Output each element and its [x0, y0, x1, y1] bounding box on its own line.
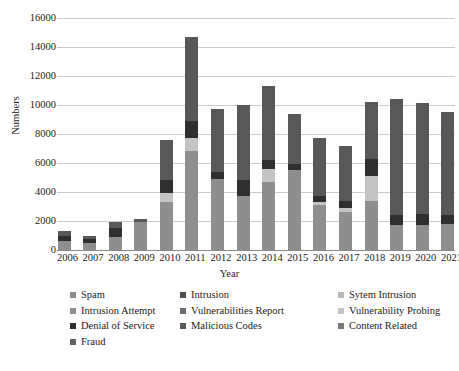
- x-tick-label: 2019: [390, 252, 404, 263]
- bar-segment: [416, 214, 429, 224]
- bar-column[interactable]: [236, 18, 250, 250]
- bar-column[interactable]: [441, 18, 455, 250]
- y-tick-label: 14000: [16, 42, 56, 52]
- x-axis-line: [57, 250, 455, 251]
- bar-segment: [416, 225, 429, 250]
- stacked-bar[interactable]: [365, 102, 378, 250]
- bar-segment: [185, 37, 198, 121]
- y-tick-label: 12000: [16, 71, 56, 81]
- bar-segment: [262, 182, 275, 250]
- legend-row: Denial of ServiceMalicious CodesContent …: [70, 320, 450, 332]
- stacked-bar[interactable]: [160, 140, 173, 250]
- bar-column[interactable]: [364, 18, 378, 250]
- bar-segment: [237, 105, 250, 180]
- stacked-bar[interactable]: [416, 103, 429, 250]
- stacked-bar[interactable]: [185, 37, 198, 250]
- bar-column[interactable]: [339, 18, 353, 250]
- stacked-bar[interactable]: [134, 219, 147, 250]
- bar-column[interactable]: [415, 18, 429, 250]
- bar-segment: [390, 99, 403, 215]
- bar-segment: [160, 193, 173, 202]
- legend-swatch-icon: [338, 292, 344, 298]
- bar-segment: [390, 225, 403, 250]
- bar-segment: [160, 140, 173, 181]
- stacked-bar[interactable]: [339, 146, 352, 250]
- x-tick-label: 2011: [185, 252, 199, 263]
- y-tick-label: 16000: [16, 13, 56, 23]
- legend-label: Intrusion: [191, 289, 229, 301]
- legend-item[interactable]: Fraud: [70, 336, 180, 348]
- legend-item[interactable]: Denial of Service: [70, 320, 180, 332]
- bar-segment: [262, 86, 275, 160]
- chart-legend: SpamIntrusionSytem IntrusionIntrusion At…: [70, 289, 450, 351]
- bar-column[interactable]: [83, 18, 97, 250]
- legend-label: Vulnerabilities Report: [191, 305, 284, 317]
- bar-segment: [390, 215, 403, 225]
- bar-segment: [339, 146, 352, 201]
- x-tick-label: 2009: [134, 252, 148, 263]
- bar-segment: [160, 202, 173, 250]
- bar-segment: [365, 201, 378, 250]
- bar-segment: [441, 224, 454, 250]
- stacked-bar[interactable]: [109, 222, 122, 250]
- stacked-bar[interactable]: [237, 105, 250, 250]
- legend-swatch-icon: [180, 323, 186, 329]
- x-axis-title: Year: [0, 268, 459, 279]
- legend-item[interactable]: Spam: [70, 289, 180, 301]
- legend-item[interactable]: Intrusion: [180, 289, 338, 301]
- bar-column[interactable]: [262, 18, 276, 250]
- bar-segment: [109, 228, 122, 237]
- bar-segment: [313, 138, 326, 196]
- legend-row: Intrusion AttemptVulnerabilities ReportV…: [70, 305, 450, 317]
- legend-swatch-icon: [70, 308, 76, 314]
- legend-label: Content Related: [349, 320, 417, 332]
- bar-column[interactable]: [211, 18, 225, 250]
- legend-swatch-icon: [180, 292, 186, 298]
- bar-column[interactable]: [134, 18, 148, 250]
- stacked-bar[interactable]: [390, 99, 403, 250]
- legend-label: Fraud: [81, 336, 106, 348]
- stacked-bar[interactable]: [288, 114, 301, 250]
- bar-segment: [109, 237, 122, 250]
- x-tick-label: 2014: [262, 252, 276, 263]
- bar-segment: [441, 215, 454, 224]
- plot-area: [57, 18, 455, 250]
- bar-segment: [160, 180, 173, 193]
- bar-segment: [262, 160, 275, 169]
- stacked-bar[interactable]: [58, 231, 71, 250]
- bar-column[interactable]: [390, 18, 404, 250]
- x-tick-label: 2016: [313, 252, 327, 263]
- stacked-bar[interactable]: [262, 86, 275, 250]
- bar-column[interactable]: [57, 18, 71, 250]
- legend-item[interactable]: Vulnerability Probing: [338, 305, 440, 317]
- bar-segment: [58, 241, 71, 250]
- bar-column[interactable]: [287, 18, 301, 250]
- bar-column[interactable]: [313, 18, 327, 250]
- bar-segment: [185, 138, 198, 151]
- x-tick-label: 2018: [364, 252, 378, 263]
- bar-series-container: [57, 18, 455, 250]
- stacked-bar[interactable]: [441, 112, 454, 250]
- bar-segment: [339, 212, 352, 250]
- plot-region: Numbers 16000140001200010000800060004000…: [0, 0, 459, 286]
- stacked-bar-chart: Numbers 16000140001200010000800060004000…: [0, 0, 459, 371]
- bar-segment: [185, 151, 198, 250]
- legend-item[interactable]: Intrusion Attempt: [70, 305, 180, 317]
- bar-segment: [288, 114, 301, 165]
- legend-swatch-icon: [338, 323, 344, 329]
- bar-segment: [365, 159, 378, 176]
- bar-segment: [441, 112, 454, 215]
- stacked-bar[interactable]: [313, 138, 326, 250]
- legend-item[interactable]: Vulnerabilities Report: [180, 305, 338, 317]
- stacked-bar[interactable]: [83, 236, 96, 250]
- stacked-bar[interactable]: [211, 109, 224, 250]
- legend-item[interactable]: Sytem Intrusion: [338, 289, 416, 301]
- bar-column[interactable]: [108, 18, 122, 250]
- legend-row: Fraud: [70, 336, 450, 348]
- legend-item[interactable]: Malicious Codes: [180, 320, 338, 332]
- bar-column[interactable]: [159, 18, 173, 250]
- legend-item[interactable]: Content Related: [338, 320, 417, 332]
- legend-label: Denial of Service: [81, 320, 154, 332]
- bar-column[interactable]: [185, 18, 199, 250]
- bar-segment: [237, 180, 250, 196]
